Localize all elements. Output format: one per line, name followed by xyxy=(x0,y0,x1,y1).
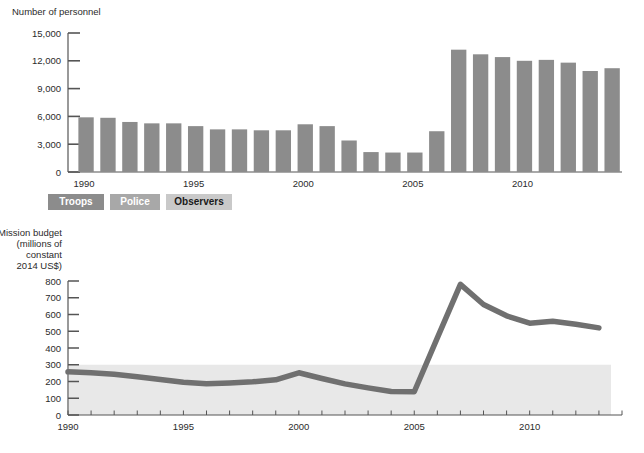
personnel-bar xyxy=(276,130,291,172)
personnel-bar xyxy=(451,50,466,172)
budget-chart-title-line: (millions of xyxy=(17,238,63,249)
budget-y-tick-label: 600 xyxy=(45,309,61,320)
budget-chart-title-line: constant xyxy=(26,249,62,260)
personnel-bar xyxy=(100,118,115,172)
personnel-x-tick-label: 2005 xyxy=(402,178,423,189)
legend-item-police[interactable]: Police xyxy=(110,194,160,210)
personnel-x-tick-label: 2000 xyxy=(293,178,314,189)
personnel-bar xyxy=(583,71,598,172)
personnel-y-tick-label: 3,000 xyxy=(37,139,61,150)
budget-chart-title-line: Mission budget xyxy=(0,227,62,238)
budget-chart: Mission budget(millions ofconstant2014 U… xyxy=(0,227,622,432)
personnel-bar xyxy=(254,130,269,172)
budget-y-tick-label: 500 xyxy=(45,326,61,337)
personnel-x-tick-label: 2010 xyxy=(512,178,533,189)
personnel-chart: Number of personnel03,0006,0009,00012,00… xyxy=(12,6,622,189)
personnel-y-tick-label: 6,000 xyxy=(37,111,61,122)
legend-item-observers[interactable]: Observers xyxy=(166,194,232,210)
personnel-x-tick-label: 1995 xyxy=(183,178,204,189)
personnel-bar xyxy=(298,124,313,172)
budget-shaded-band xyxy=(69,365,611,415)
personnel-bar xyxy=(407,153,422,172)
personnel-bar xyxy=(122,122,137,172)
personnel-bar xyxy=(144,123,159,172)
legend-item-label: Police xyxy=(120,197,149,207)
figure-root: Number of personnel03,0006,0009,00012,00… xyxy=(0,0,644,453)
budget-x-tick-label: 2005 xyxy=(404,421,425,432)
personnel-bar xyxy=(210,129,225,172)
budget-y-tick-label: 100 xyxy=(45,393,61,404)
personnel-bar xyxy=(166,123,181,172)
budget-x-tick-label: 1990 xyxy=(57,421,78,432)
legend-item-troops[interactable]: Troops xyxy=(48,194,104,210)
personnel-bar xyxy=(341,140,356,172)
personnel-bar xyxy=(188,126,203,172)
budget-y-tick-label: 300 xyxy=(45,359,61,370)
personnel-bar xyxy=(320,126,335,172)
legend-item-label: Troops xyxy=(59,197,92,207)
budget-y-tick-label: 0 xyxy=(56,410,61,421)
personnel-y-tick-label: 9,000 xyxy=(37,83,61,94)
personnel-y-tick-label: 12,000 xyxy=(32,55,61,66)
personnel-bar xyxy=(363,152,378,172)
legend-item-label: Observers xyxy=(174,197,223,207)
budget-x-tick-label: 2000 xyxy=(288,421,309,432)
personnel-bar xyxy=(429,131,444,172)
dual-chart-svg: Number of personnel03,0006,0009,00012,00… xyxy=(0,0,644,453)
personnel-y-tick-label: 0 xyxy=(56,167,61,178)
budget-x-tick-label: 2010 xyxy=(519,421,540,432)
personnel-bar xyxy=(495,57,510,172)
personnel-bar xyxy=(604,68,619,172)
personnel-bar xyxy=(473,54,488,172)
budget-y-tick-label: 700 xyxy=(45,292,61,303)
personnel-bar xyxy=(385,153,400,172)
budget-y-tick-label: 800 xyxy=(45,276,61,287)
personnel-y-tick-label: 15,000 xyxy=(32,28,61,39)
personnel-bar xyxy=(561,63,576,172)
budget-chart-title-line: 2014 US$) xyxy=(17,260,62,271)
personnel-x-tick-label: 1990 xyxy=(73,178,94,189)
personnel-bar xyxy=(517,61,532,172)
budget-y-tick-label: 200 xyxy=(45,376,61,387)
personnel-bar xyxy=(78,117,93,172)
personnel-chart-title: Number of personnel xyxy=(12,6,101,17)
personnel-bar xyxy=(539,60,554,172)
budget-x-tick-label: 1995 xyxy=(173,421,194,432)
personnel-bar xyxy=(232,129,247,172)
budget-y-tick-label: 400 xyxy=(45,343,61,354)
